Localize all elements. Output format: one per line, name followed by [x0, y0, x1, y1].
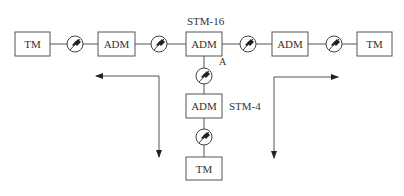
node-tm-bottom[interactable]: TM	[186, 157, 222, 180]
node-tm-left[interactable]: TM	[15, 32, 50, 56]
regenerator-icon	[151, 36, 167, 52]
regenerator-icon	[240, 36, 256, 52]
regenerator-icon	[196, 129, 212, 145]
node-adm-right[interactable]: ADM	[272, 32, 308, 56]
regenerator-icon	[67, 36, 83, 52]
node-label: TM	[366, 38, 383, 50]
stm4-label: STM-4	[229, 100, 261, 112]
node-label: ADM	[104, 38, 130, 50]
sdh-network-diagram: TM ADM ADM ADM TM ADM TM STM-16 STM-4 A	[0, 0, 404, 196]
left-flow-arrow	[96, 76, 159, 157]
stm16-label: STM-16	[187, 15, 225, 27]
right-flow-arrow	[274, 77, 338, 158]
point-a-label: A	[219, 56, 227, 67]
regenerator-icon	[196, 68, 212, 84]
node-label: ADM	[191, 100, 217, 112]
node-adm-1[interactable]: ADM	[98, 32, 135, 56]
node-label: TM	[196, 163, 213, 175]
regenerator-icon	[326, 36, 342, 52]
node-adm-center[interactable]: ADM	[186, 32, 222, 56]
node-label: ADM	[191, 38, 217, 50]
node-label: TM	[24, 38, 41, 50]
node-label: ADM	[277, 38, 303, 50]
node-adm-stm4[interactable]: ADM	[186, 94, 222, 118]
node-tm-right[interactable]: TM	[357, 32, 392, 56]
